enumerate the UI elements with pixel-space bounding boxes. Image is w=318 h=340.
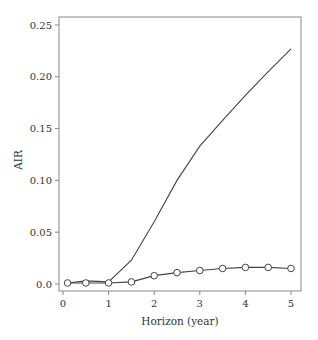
data-point-marker — [197, 267, 204, 274]
x-tick-label: 2 — [151, 298, 157, 309]
x-axis-label: Horizon (year) — [141, 315, 218, 327]
y-tick-label: 0.05 — [30, 227, 52, 238]
x-axis: 012345 — [60, 291, 294, 309]
air-horizon-line-chart: 0.00.050.100.150.200.25 012345 Horizon (… — [0, 0, 318, 340]
data-point-marker — [128, 279, 135, 286]
data-point-marker — [151, 272, 158, 279]
data-point-marker — [219, 265, 226, 272]
x-tick-label: 1 — [105, 298, 111, 309]
plot-frame — [59, 17, 301, 291]
x-tick-label: 3 — [197, 298, 203, 309]
x-tick-label: 5 — [288, 298, 294, 309]
y-tick-label: 0.0 — [36, 279, 52, 290]
y-tick-label: 0.20 — [30, 71, 52, 82]
data-point-marker — [288, 265, 295, 272]
data-point-marker — [265, 264, 272, 271]
y-axis: 0.00.050.100.150.200.25 — [30, 20, 59, 290]
series-line-0 — [68, 49, 291, 283]
y-axis-label: AIR — [12, 149, 24, 171]
x-tick-label: 4 — [242, 298, 248, 309]
data-point-marker — [242, 264, 249, 271]
data-point-marker — [64, 280, 71, 287]
data-point-marker — [83, 280, 90, 287]
y-tick-label: 0.10 — [30, 175, 52, 186]
y-tick-label: 0.15 — [30, 123, 52, 134]
x-tick-label: 0 — [60, 298, 66, 309]
data-series — [64, 49, 294, 286]
y-tick-label: 0.25 — [30, 20, 52, 31]
data-point-marker — [174, 269, 181, 276]
data-point-marker — [105, 280, 112, 287]
